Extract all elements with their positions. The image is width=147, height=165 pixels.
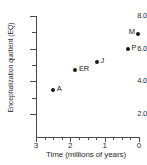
x-axis-minor-tick (88, 137, 89, 140)
y-axis-title: Encephalization quotient (EQ) (7, 6, 14, 130)
x-axis-tick-label: 3 (29, 141, 43, 150)
y-axis-tick (30, 81, 36, 82)
x-axis-tick-label: 2 (63, 141, 77, 150)
y-axis-tick (30, 49, 36, 50)
data-point-label-p: P (132, 44, 137, 52)
y-axis-minor-tick (32, 32, 36, 33)
y-axis-tick-label: 4.0 (118, 77, 147, 85)
x-axis-minor-tick (45, 137, 46, 140)
x-axis-minor-tick (62, 137, 63, 140)
y-axis-minor-tick (32, 65, 36, 66)
data-point-m (136, 32, 140, 36)
x-axis-tick-label: 0 (132, 141, 146, 150)
y-axis-tick (30, 16, 36, 17)
data-point-j (95, 60, 99, 64)
x-axis-minor-tick (130, 137, 131, 140)
data-point-a (51, 88, 55, 92)
y-axis-tick-label: 2.0 (118, 110, 147, 118)
encephalization-quotient-scatter-chart: 8.06.04.02.0 3210 Encephalization quotie… (0, 0, 147, 165)
data-point-label-m: M (129, 28, 135, 36)
x-axis-minor-tick (79, 137, 80, 140)
data-point-er (73, 68, 77, 72)
data-point-label-er: ER (79, 65, 89, 73)
data-point-label-a: A (57, 85, 62, 93)
y-axis-tick (30, 114, 36, 115)
x-axis-title: Time (millions of years) (26, 150, 146, 159)
data-point-p (126, 47, 130, 51)
data-point-label-j: J (101, 57, 105, 65)
x-axis-minor-tick (96, 137, 97, 140)
y-axis-tick-label: 8.0 (118, 12, 147, 20)
y-axis-line (36, 16, 37, 137)
x-axis-minor-tick (113, 137, 114, 140)
x-axis-minor-tick (122, 137, 123, 140)
x-axis-minor-tick (53, 137, 54, 140)
x-axis-tick-label: 1 (98, 141, 112, 150)
y-axis-minor-tick (32, 98, 36, 99)
